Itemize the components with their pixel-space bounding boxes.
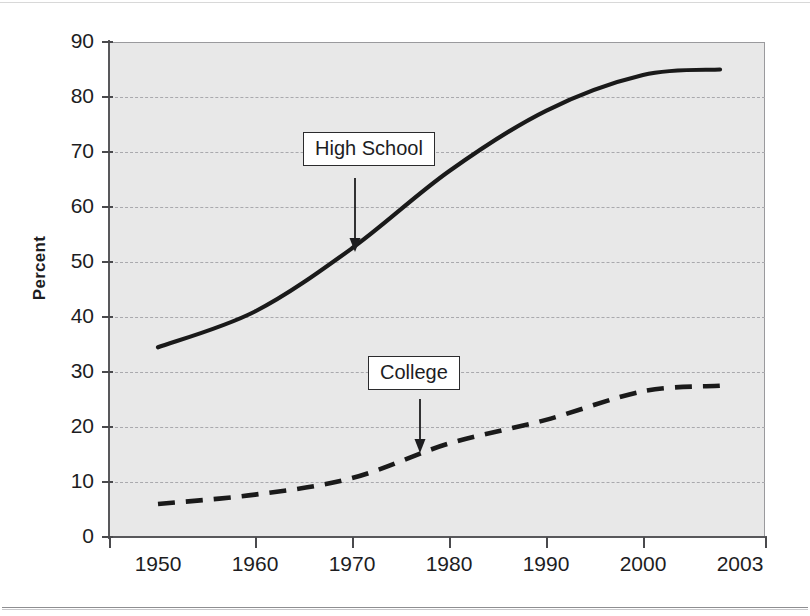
y-axis-line [108, 40, 110, 539]
y-tick-60 [102, 206, 113, 208]
x-tick-label-2000: 2000 [603, 552, 683, 576]
gridline-40 [110, 317, 765, 318]
annotation-label-college: College [368, 356, 460, 390]
x-tick-label-2003: 2003 [700, 552, 780, 576]
x-axis-line [108, 536, 767, 538]
x-tick-label-1950: 1950 [118, 552, 198, 576]
x-tick-1970 [352, 537, 354, 548]
x-tick-label-1960: 1960 [215, 552, 295, 576]
plot-area [110, 42, 765, 537]
y-tick-label-30: 30 [42, 359, 94, 383]
gridline-80 [110, 97, 765, 98]
y-tick-label-0: 0 [42, 524, 94, 548]
page-bottom-rule [2, 607, 808, 608]
plot-frame-top [110, 42, 765, 43]
x-tick-label-1980: 1980 [409, 552, 489, 576]
gridline-20 [110, 427, 765, 428]
x-tick-origin [109, 537, 111, 548]
y-tick-label-80: 80 [42, 84, 94, 108]
x-tick-1980 [449, 537, 451, 548]
y-tick-20 [102, 426, 113, 428]
y-tick-label-10: 10 [42, 469, 94, 493]
y-tick-10 [102, 481, 113, 483]
y-tick-40 [102, 316, 113, 318]
y-tick-label-90: 90 [42, 29, 94, 53]
y-tick-80 [102, 96, 113, 98]
gridline-60 [110, 207, 765, 208]
plot-frame-right [764, 42, 765, 537]
annotation-label-high-school: High School [303, 132, 435, 166]
x-tick-2000 [643, 537, 645, 548]
x-tick-label-1970: 1970 [312, 552, 392, 576]
x-tick-2003 [765, 537, 767, 548]
y-tick-label-20: 20 [42, 414, 94, 438]
chart-figure: 90 80 70 60 50 40 30 20 10 0 1950 1960 1… [0, 0, 810, 616]
x-tick-1960 [255, 537, 257, 548]
y-tick-90 [102, 41, 113, 43]
y-tick-50 [102, 261, 113, 263]
y-tick-30 [102, 371, 113, 373]
page-bottom-rule-shadow [2, 609, 808, 610]
x-tick-label-1990: 1990 [506, 552, 586, 576]
x-tick-1990 [546, 537, 548, 548]
gridline-10 [110, 482, 765, 483]
gridline-70 [110, 152, 765, 153]
y-tick-70 [102, 151, 113, 153]
page-top-rule [0, 2, 810, 3]
gridline-50 [110, 262, 765, 263]
y-tick-label-70: 70 [42, 139, 94, 163]
y-axis-title: Percent [30, 208, 50, 328]
y-tick-0 [102, 536, 113, 538]
